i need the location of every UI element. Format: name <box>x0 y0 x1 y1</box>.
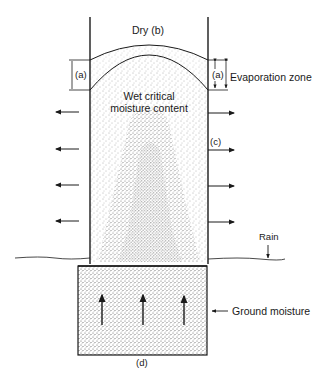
dry-label: Dry (b) <box>132 24 164 36</box>
d-label: (d) <box>136 357 148 369</box>
rain-label: Rain <box>259 231 279 243</box>
wet-critical-line2: moisture content <box>105 102 193 114</box>
ground-moisture-label: Ground moisture <box>232 305 310 317</box>
right-evaporation-arrows <box>208 113 234 222</box>
a-right-label: (a) <box>212 69 224 81</box>
wall-diagram <box>0 0 318 380</box>
a-left-label: (a) <box>75 69 87 81</box>
left-evaporation-arrows <box>56 112 79 221</box>
wet-zone <box>90 55 208 262</box>
c-label: (c) <box>210 136 221 148</box>
evaporation-zone-label: Evaporation zone <box>230 71 312 83</box>
wet-critical-label: Wet critical moisture content <box>105 90 193 114</box>
ground-line-left <box>15 257 90 259</box>
wet-critical-line1: Wet critical <box>105 90 193 102</box>
ground-line-right <box>208 258 285 260</box>
